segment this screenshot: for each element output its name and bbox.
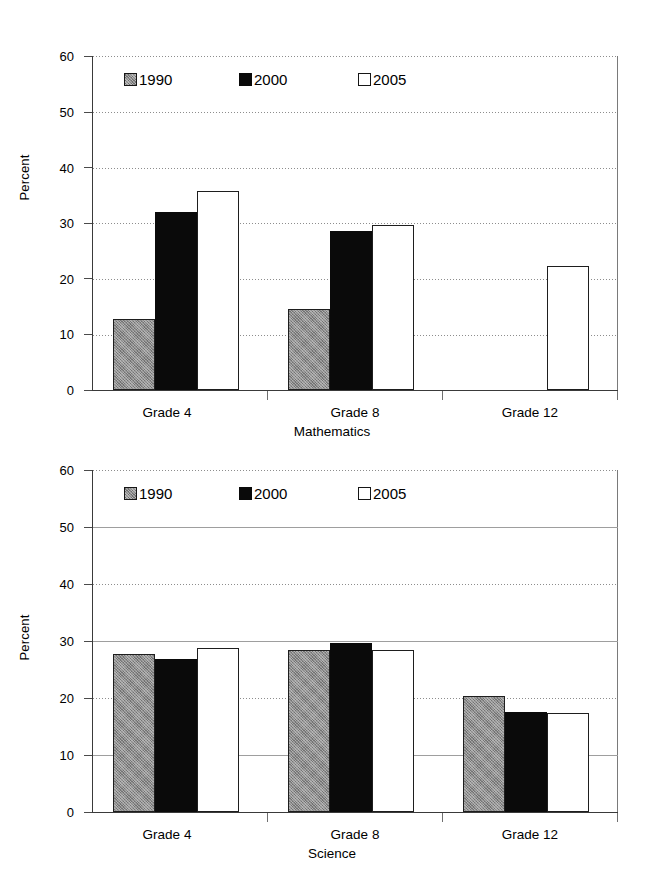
- bar-science-grade12-2005: [547, 713, 589, 812]
- legend-swatch-1990-icon: [124, 73, 137, 86]
- science-bar-chart: Percent 60 50 40 30 20 10 0: [0, 450, 664, 875]
- x-tick-separator-1-mathematics: [267, 391, 268, 400]
- y-tick-label-10-mathematics: 10: [44, 328, 74, 341]
- legend-science: 1990 2000 2005: [124, 486, 406, 501]
- bar-mathematics-grade4-2005: [197, 191, 239, 390]
- y-axis-title-mathematics: Percent: [17, 118, 32, 238]
- legend-label-2005: 2005: [373, 486, 406, 501]
- x-axis-title-mathematics: Mathematics: [0, 424, 664, 439]
- legend-item-2005-mathematics: 2005: [358, 72, 406, 87]
- plot-area-science: [92, 470, 618, 813]
- gridline-60-science: [93, 470, 618, 471]
- x-category-label-grade4-science: Grade 4: [112, 827, 222, 842]
- bar-science-grade4-2000: [155, 659, 197, 812]
- gridline-50-mathematics: [93, 112, 618, 113]
- legend-item-2005-science: 2005: [358, 486, 406, 501]
- bar-mathematics-grade4-1990: [113, 319, 155, 390]
- legend-label-2000: 2000: [254, 72, 287, 87]
- legend-swatch-2000-icon: [239, 487, 252, 500]
- gridline-40-science: [93, 584, 618, 585]
- x-tick-separator-2-mathematics: [442, 391, 443, 400]
- legend-item-1990-science: 1990: [124, 486, 239, 501]
- legend-swatch-1990-icon: [124, 487, 137, 500]
- legend-label-1990: 1990: [139, 486, 172, 501]
- bar-science-grade4-2005: [197, 648, 239, 812]
- plot-area-mathematics: [92, 56, 618, 391]
- legend-label-1990: 1990: [139, 72, 172, 87]
- gridline-40-mathematics: [93, 168, 618, 169]
- bar-science-grade8-1990: [288, 650, 330, 813]
- legend-swatch-2005-icon: [358, 73, 371, 86]
- legend-mathematics: 1990 2000 2005: [124, 72, 406, 87]
- legend-label-2000: 2000: [254, 486, 287, 501]
- y-tick-label-30-science: 30: [44, 635, 74, 648]
- gridline-30-science: [93, 641, 618, 642]
- y-tick-label-60-mathematics: 60: [44, 50, 74, 63]
- x-axis-title-science: Science: [0, 846, 664, 861]
- x-category-label-grade4-mathematics: Grade 4: [112, 405, 222, 420]
- gridline-50-science: [93, 527, 618, 528]
- legend-label-2005: 2005: [373, 72, 406, 87]
- legend-item-1990-mathematics: 1990: [124, 72, 239, 87]
- gridline-60-mathematics: [93, 56, 618, 57]
- bar-mathematics-grade4-2000: [155, 212, 197, 390]
- bar-science-grade12-2000: [505, 712, 547, 812]
- bar-mathematics-grade8-2000: [330, 231, 372, 390]
- legend-swatch-2005-icon: [358, 487, 371, 500]
- bar-science-grade8-2000: [330, 643, 372, 812]
- y-tick-label-0-science: 0: [44, 806, 74, 819]
- x-tick-separator-3-science: [617, 813, 618, 822]
- legend-item-2000-mathematics: 2000: [239, 72, 358, 87]
- y-tick-label-20-science: 20: [44, 692, 74, 705]
- x-category-label-grade12-mathematics: Grade 12: [475, 405, 585, 420]
- y-axis-title-science: Percent: [17, 578, 32, 698]
- y-tick-label-30-mathematics: 30: [44, 217, 74, 230]
- bar-mathematics-grade12-2005: [547, 266, 589, 390]
- bar-science-grade4-1990: [113, 654, 155, 812]
- y-tick-label-20-mathematics: 20: [44, 273, 74, 286]
- x-category-label-grade12-science: Grade 12: [475, 827, 585, 842]
- y-tick-label-40-mathematics: 40: [44, 162, 74, 175]
- bar-science-grade12-1990: [463, 696, 505, 812]
- figure-two-bar-charts: Percent 60 50 40 30 20 10 0: [0, 0, 664, 875]
- bar-mathematics-grade8-2005: [372, 225, 414, 390]
- mathematics-bar-chart: Percent 60 50 40 30 20 10 0: [0, 0, 664, 450]
- y-tick-label-0-mathematics: 0: [44, 384, 74, 397]
- x-tick-separator-2-science: [442, 813, 443, 822]
- x-category-label-grade8-mathematics: Grade 8: [300, 405, 410, 420]
- y-tick-label-10-science: 10: [44, 749, 74, 762]
- bar-science-grade8-2005: [372, 650, 414, 812]
- legend-item-2000-science: 2000: [239, 486, 358, 501]
- legend-swatch-2000-icon: [239, 73, 252, 86]
- bar-mathematics-grade8-1990: [288, 309, 330, 390]
- y-tick-label-60-science: 60: [44, 464, 74, 477]
- y-tick-label-40-science: 40: [44, 578, 74, 591]
- x-tick-separator-1-science: [267, 813, 268, 822]
- x-tick-separator-3-mathematics: [617, 391, 618, 400]
- y-tick-label-50-science: 50: [44, 521, 74, 534]
- x-category-label-grade8-science: Grade 8: [300, 827, 410, 842]
- y-tick-label-50-mathematics: 50: [44, 106, 74, 119]
